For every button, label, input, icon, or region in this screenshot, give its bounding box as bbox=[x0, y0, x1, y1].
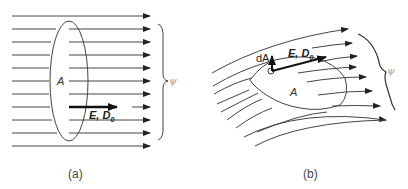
flux-brace-a bbox=[158, 24, 168, 140]
area-label-b: A bbox=[290, 86, 297, 98]
field-label-a-sub: 0 bbox=[110, 116, 114, 123]
area-label-a: A bbox=[57, 75, 64, 87]
field-label-b: E, D0 bbox=[288, 47, 313, 61]
flux-label-a: ψ bbox=[169, 75, 177, 86]
element-label-b: dA bbox=[256, 52, 269, 64]
flux-label-b: ψ bbox=[387, 65, 395, 76]
panel-a bbox=[12, 16, 168, 146]
field-label-a: E, D0 bbox=[89, 109, 114, 123]
caption-b: (b) bbox=[303, 167, 318, 181]
caption-a: (a) bbox=[68, 167, 83, 181]
element-label-b-text: dA bbox=[256, 52, 269, 64]
flux-diagram bbox=[0, 0, 408, 189]
field-label-b-text: E, D bbox=[288, 47, 309, 59]
field-label-a-text: E, D bbox=[89, 109, 110, 121]
field-label-b-sub: 0 bbox=[309, 54, 313, 61]
